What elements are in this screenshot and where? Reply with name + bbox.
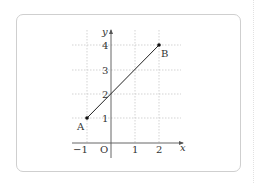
y-tick-label: 2	[102, 89, 108, 100]
point-a-label: A	[76, 121, 85, 132]
y-tick-label: 1	[102, 113, 108, 124]
y-tick-label: 3	[102, 65, 108, 76]
x-axis-label: x	[180, 142, 186, 153]
point-b-label: B	[161, 48, 168, 59]
point-b	[157, 43, 161, 47]
point-a	[85, 116, 89, 120]
grid	[72, 30, 181, 143]
y-axis-arrow-icon	[109, 29, 113, 34]
x-tick-label: −1	[73, 144, 88, 155]
origin-label: O	[100, 144, 108, 155]
y-axis-label: y	[101, 26, 108, 37]
coordinate-plane: y x O −1 1 2 1 2 3 4 A B	[0, 0, 257, 183]
x-tick-label: 1	[132, 144, 138, 155]
y-tick-label: 4	[102, 40, 108, 51]
segment-ab	[87, 45, 159, 118]
x-tick-label: 2	[156, 144, 162, 155]
